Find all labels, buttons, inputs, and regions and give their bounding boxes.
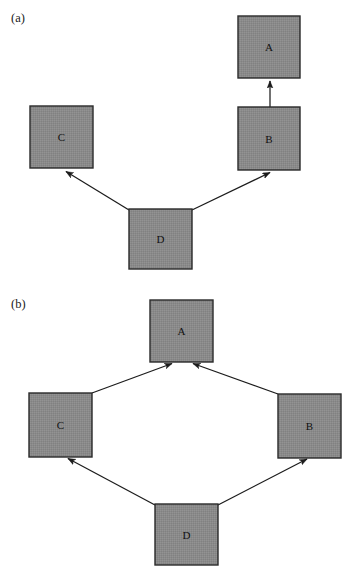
node-b-D: D: [155, 504, 218, 565]
node-label-d: D: [183, 529, 191, 541]
node-b-C: C: [29, 393, 92, 457]
node-b-A: A: [150, 300, 213, 362]
node-label-c: C: [58, 131, 65, 143]
dependency-graph-figure: (a) A C B D: [0, 0, 351, 572]
figure-background: [0, 0, 351, 572]
node-label-a: A: [178, 325, 186, 337]
node-a-A: A: [238, 16, 300, 78]
node-label-a: A: [265, 41, 273, 53]
node-a-C: C: [30, 106, 93, 168]
node-label-b: B: [265, 133, 272, 145]
node-label-d: D: [157, 233, 165, 245]
figure-container: (a) A C B D: [0, 0, 351, 572]
node-a-B: B: [238, 107, 300, 170]
panel-a-label: (a): [11, 11, 25, 25]
node-b-B: B: [278, 394, 341, 458]
node-label-c: C: [57, 419, 64, 431]
node-label-b: B: [306, 420, 313, 432]
node-a-D: D: [129, 209, 192, 269]
panel-b-label: (b): [11, 297, 26, 311]
